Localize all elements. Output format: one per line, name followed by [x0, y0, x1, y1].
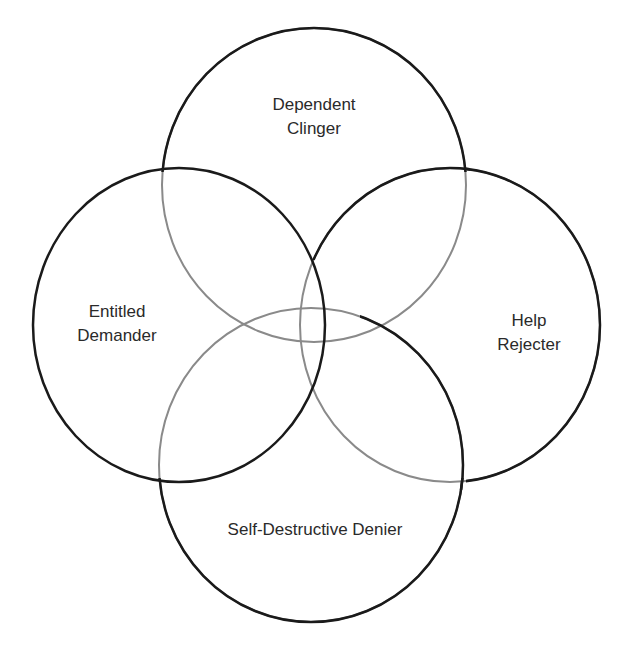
circle-self-destructive-denier — [159, 308, 463, 622]
label-dependent-clinger: Dependent Clinger — [272, 93, 355, 141]
circle-dependent-clinger — [162, 28, 466, 342]
label-help-rejecter: Help Rejecter — [497, 309, 560, 357]
label-line: Self-Destructive Denier — [228, 518, 403, 542]
label-entitled-demander: Entitled Demander — [77, 300, 156, 348]
label-line: Dependent — [272, 93, 355, 117]
label-line: Demander — [77, 324, 156, 348]
circle-self-destructive-denier-arc — [159, 308, 463, 622]
label-line: Entitled — [77, 300, 156, 324]
label-line: Help — [497, 309, 560, 333]
label-self-destructive-denier: Self-Destructive Denier — [228, 518, 403, 542]
circle-dependent-clinger-light — [162, 28, 466, 342]
circle-self-destructive-denier-light — [159, 308, 463, 622]
label-line: Clinger — [272, 117, 355, 141]
label-line: Rejecter — [497, 333, 560, 357]
